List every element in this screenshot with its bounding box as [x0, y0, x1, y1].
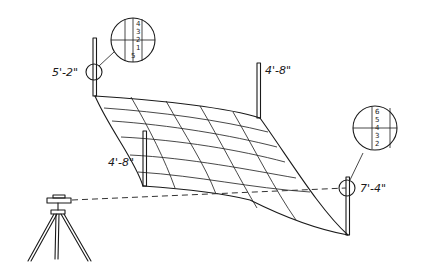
tick-label: 3 — [136, 28, 140, 36]
rod-bottom-right — [346, 177, 350, 235]
level-on-tripod-icon — [28, 195, 91, 261]
surveying-diagram: 4 3 2 1 5 6 5 4 3 2 5'-2" 4'-8" 4'-8" 7'… — [0, 0, 421, 278]
tick-label: 6 — [375, 108, 380, 116]
tick-label: 5 — [131, 52, 135, 60]
tick-label: 2 — [375, 140, 379, 148]
label-bottom-right: 7'-4" — [360, 182, 386, 195]
tick-label: 4 — [136, 20, 141, 28]
rod-middle-left — [143, 131, 147, 186]
tick-label: 3 — [375, 132, 379, 140]
line-of-sight — [72, 188, 346, 200]
label-top-right: 4'-8" — [265, 64, 291, 77]
rod-top-right — [257, 63, 261, 118]
tick-label: 5 — [375, 116, 379, 124]
label-middle-left: 4'-8" — [108, 156, 134, 169]
tick-label: 4 — [375, 124, 380, 132]
rod-top-left — [93, 38, 97, 96]
tick-label: 2 — [136, 36, 140, 44]
tick-label: 1 — [136, 44, 140, 52]
label-top-left: 5'-2" — [52, 66, 78, 79]
